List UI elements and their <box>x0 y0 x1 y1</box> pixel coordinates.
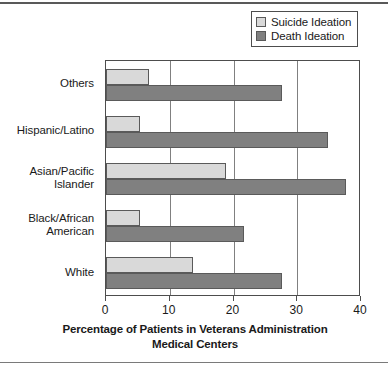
bar-suicide-ideation-2 <box>106 163 226 179</box>
x-axis-tick-30 <box>296 296 297 301</box>
legend-item-suicide-ideation: Suicide Ideation <box>256 15 351 29</box>
plot-area <box>105 60 360 296</box>
x-axis-tick-10 <box>169 296 170 301</box>
bar-death-ideation-2 <box>106 179 346 195</box>
y-axis-label-1: Hispanic/Latino <box>17 124 94 137</box>
bar-suicide-ideation-0 <box>106 69 149 85</box>
top-divider-rule <box>0 2 388 4</box>
legend-swatch-death-ideation <box>256 31 266 41</box>
gridline-x-30 <box>297 61 298 295</box>
legend-label-death-ideation: Death Ideation <box>271 30 344 43</box>
x-axis-title-line-2: Medical Centers <box>20 337 370 352</box>
bar-suicide-ideation-3 <box>106 210 140 226</box>
bar-death-ideation-4 <box>106 273 282 289</box>
y-axis-label-0: Others <box>60 77 94 90</box>
legend-swatch-suicide-ideation <box>256 17 266 27</box>
bar-death-ideation-1 <box>106 132 328 148</box>
x-axis-tick-20 <box>233 296 234 301</box>
x-axis-tick-0 <box>105 296 106 301</box>
x-axis-tick-label-0: 0 <box>85 303 125 317</box>
bar-chart-figure: Suicide Ideation Death Ideation OthersHi… <box>0 0 388 375</box>
bar-death-ideation-3 <box>106 226 244 242</box>
x-axis-tick-label-40: 40 <box>340 303 380 317</box>
x-axis-title-line-1: Percentage of Patients in Veterans Admin… <box>20 322 370 337</box>
x-axis-tick-label-20: 20 <box>213 303 253 317</box>
bar-suicide-ideation-1 <box>106 116 140 132</box>
x-axis-tick-label-30: 30 <box>276 303 316 317</box>
legend-item-death-ideation: Death Ideation <box>256 29 351 43</box>
legend-label-suicide-ideation: Suicide Ideation <box>271 16 351 29</box>
bottom-divider-rule <box>0 362 388 363</box>
y-axis-label-2: Asian/Pacific Islander <box>29 165 94 191</box>
plot-inner <box>106 61 359 295</box>
bar-suicide-ideation-4 <box>106 257 193 273</box>
bar-death-ideation-0 <box>106 85 282 101</box>
x-axis-tick-label-10: 10 <box>149 303 189 317</box>
y-axis-category-labels: OthersHispanic/LatinoAsian/Pacific Islan… <box>0 60 100 296</box>
x-axis-tick-40 <box>360 296 361 301</box>
y-axis-label-3: Black/African American <box>28 212 94 238</box>
x-axis-title: Percentage of Patients in Veterans Admin… <box>20 322 370 352</box>
chart-legend: Suicide Ideation Death Ideation <box>251 11 358 47</box>
y-axis-label-4: White <box>65 266 94 279</box>
